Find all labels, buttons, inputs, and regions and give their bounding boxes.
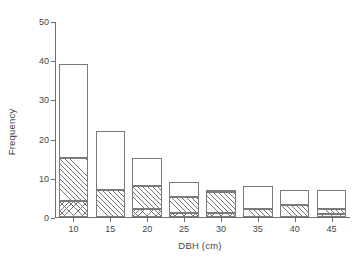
bar-segment-open — [169, 182, 199, 198]
histogram-bar — [132, 158, 162, 217]
y-tick-label: 0 — [44, 213, 49, 223]
x-tick-mark — [258, 218, 259, 222]
bar-segment-open — [243, 186, 273, 210]
x-tick-label: 15 — [105, 224, 115, 234]
histogram-figure: Frequency 01020304050 1015202530354045 D… — [0, 0, 360, 264]
bar-segment-crosshatch — [59, 201, 89, 217]
y-tick-label: 20 — [39, 135, 49, 145]
x-tick-mark — [332, 218, 333, 222]
x-tick-label: 20 — [142, 224, 152, 234]
y-tick-label: 40 — [39, 56, 49, 66]
x-axis-spine — [55, 217, 350, 218]
bar-segment-hatch — [132, 186, 162, 210]
x-tick-mark — [295, 218, 296, 222]
x-tick-mark — [221, 218, 222, 222]
y-tick-label: 50 — [39, 17, 49, 27]
bar-segment-crosshatch — [132, 209, 162, 217]
histogram-bar — [280, 190, 310, 217]
bar-segment-open — [59, 64, 89, 158]
x-tick-label: 30 — [216, 224, 226, 234]
y-tick-mark — [51, 218, 55, 219]
bar-segment-hatch — [169, 197, 199, 213]
x-tick-label: 40 — [290, 224, 300, 234]
bar-segment-hatch — [96, 190, 126, 217]
x-tick-mark — [73, 218, 74, 222]
x-tick-mark — [184, 218, 185, 222]
y-axis-label: Frequency — [0, 0, 22, 264]
x-tick-label: 10 — [68, 224, 78, 234]
bar-segment-crosshatch — [206, 213, 236, 217]
bar-segment-open — [317, 190, 347, 210]
histogram-bar — [206, 190, 236, 217]
histogram-bar — [243, 186, 273, 217]
bar-segment-hatch — [59, 158, 89, 201]
y-tick-mark — [51, 22, 55, 23]
y-tick-mark — [51, 179, 55, 180]
x-tick-mark — [110, 218, 111, 222]
plot-area: 01020304050 1015202530354045 — [55, 22, 350, 218]
bar-segment-hatch — [280, 205, 310, 217]
x-tick-label: 25 — [179, 224, 189, 234]
y-tick-mark — [51, 140, 55, 141]
y-axis-spine — [55, 22, 56, 218]
bar-segment-hatch — [206, 192, 236, 214]
bar-segment-open — [280, 190, 310, 206]
bar-segment-crosshatch — [169, 213, 199, 217]
y-tick-label: 10 — [39, 174, 49, 184]
y-tick-mark — [51, 61, 55, 62]
x-tick-label: 45 — [327, 224, 337, 234]
histogram-bar — [169, 182, 199, 217]
bar-segment-open — [132, 158, 162, 185]
histogram-bar — [317, 190, 347, 217]
x-axis-label: DBH (cm) — [45, 240, 355, 251]
y-tick-label: 30 — [39, 95, 49, 105]
histogram-bar — [59, 64, 89, 217]
x-tick-label: 35 — [253, 224, 263, 234]
y-tick-mark — [51, 100, 55, 101]
bar-segment-hatch — [243, 209, 273, 217]
bar-segment-crosshatch — [317, 214, 347, 217]
histogram-bar — [96, 131, 126, 217]
bar-segment-open — [96, 131, 126, 190]
x-tick-mark — [147, 218, 148, 222]
